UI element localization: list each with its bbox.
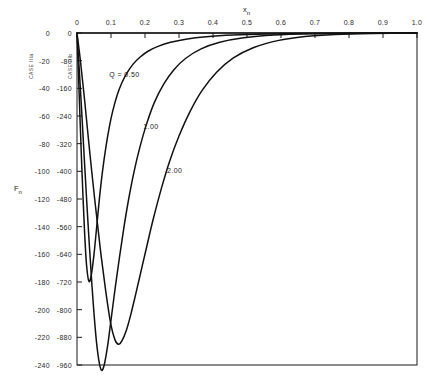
y-axis-title-sub: n (19, 189, 22, 195)
case-label-outer: CASE IIIa (28, 53, 34, 79)
y-tick-label-outer: -160 (24, 251, 50, 258)
x-tick-label: 0.7 (310, 19, 321, 26)
x-tick-label: 0.3 (174, 19, 185, 26)
x-tick-label: 0.2 (140, 19, 151, 26)
curve-q-2 (77, 33, 417, 344)
y-tick-label-outer: -240 (24, 362, 50, 369)
x-tick-label: 0.6 (276, 19, 287, 26)
curve-label-0: Q = 0.50 (109, 71, 139, 78)
chart-figure: 00.10.20.30.40.50.60.70.80.91.00-80-160-… (0, 0, 429, 385)
y-tick-label-outer: -80 (24, 140, 50, 147)
data-curves (77, 33, 417, 370)
y-axis-title: Fn (14, 184, 22, 195)
x-tick-label: 0.8 (344, 19, 355, 26)
x-tick-label: 0.4 (208, 19, 219, 26)
x-tick-label: 0.9 (378, 19, 389, 26)
y-tick-label-outer: 0 (24, 30, 50, 37)
y-tick-label-outer: -100 (24, 168, 50, 175)
y-tick-label-outer: -200 (24, 306, 50, 313)
curve-label-2: 2.00 (167, 167, 182, 174)
x-axis-title: xn (243, 5, 250, 16)
y-tick-label-outer: -60 (24, 113, 50, 120)
curve-q-1 (77, 33, 417, 370)
y-tick-label-outer: -180 (24, 279, 50, 286)
y-tick-label-outer: -140 (24, 223, 50, 230)
case-label-inner: CASE IIIb (67, 53, 73, 79)
x-axis-title-sub: n (247, 10, 250, 16)
curve-label-1: 1.00 (143, 123, 158, 130)
y-tick-label-outer: -40 (24, 85, 50, 92)
x-tick-label: 0.1 (106, 19, 117, 26)
y-tick-label-outer: -120 (24, 196, 50, 203)
x-tick-label: 1.0 (412, 19, 423, 26)
y-tick-label-outer: -220 (24, 334, 50, 341)
x-tick-label: 0.5 (242, 19, 253, 26)
x-tick-label: 0 (75, 19, 79, 26)
